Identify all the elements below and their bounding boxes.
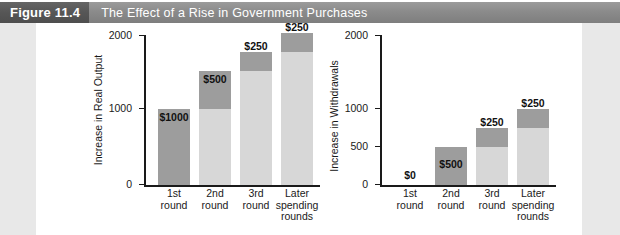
bar-value-label: $250: [517, 97, 549, 109]
bar-value-label: $500: [199, 73, 231, 85]
figure-page: Figure 11.4 The Effect of a Rise in Gove…: [0, 0, 620, 235]
bar-segment-carried: [240, 71, 272, 185]
y-tick-2000: 2000: [375, 35, 381, 36]
page-margin-left: [0, 23, 36, 235]
x-tick-label-later-spending-rounds: Later spending rounds: [272, 188, 322, 223]
bar-segment-carried: [517, 128, 549, 185]
bar-3rd-round: $250 3rd round: [476, 128, 508, 185]
bar-segment-increment: $250: [281, 33, 313, 52]
bar-1st-round: $1000 1st round: [158, 109, 190, 185]
bar-segment-increment: $250: [476, 128, 508, 147]
y-tick-1000: 1000: [139, 108, 145, 109]
bar-segment-carried: [476, 147, 508, 185]
bar-segment-increment: $250: [517, 109, 549, 128]
chart-increase-in-real-output: Increase in Real Output 0 1000 2000 $1: [94, 23, 324, 235]
y-tick-2000: 2000: [139, 35, 145, 36]
y-tick-label-1000: 1000: [345, 102, 368, 114]
y-tick-0: 0: [139, 184, 145, 185]
bar-3rd-round: $250 3rd round: [240, 52, 272, 185]
bar-segment-increment: $500: [199, 71, 231, 109]
chart-increase-in-withdrawals: Increase in Withdrawals 0 500 1000 2000: [330, 23, 570, 235]
y-tick-label-2000: 2000: [109, 29, 132, 41]
bar-segment-increment: $500: [435, 147, 467, 185]
y-axis-line: [380, 35, 382, 187]
bar-later-spending-rounds: $250 Later spending rounds: [281, 33, 313, 185]
bar-segment-carried: [199, 109, 231, 185]
figure-header: Figure 11.4 The Effect of a Rise in Gove…: [0, 2, 620, 23]
x-tick-label-later-spending-rounds: Later spending rounds: [508, 188, 558, 223]
bar-value-label: $500: [435, 158, 467, 170]
charts-container: Increase in Real Output 0 1000 2000 $1: [36, 23, 582, 235]
figure-title: The Effect of a Rise in Government Purch…: [89, 2, 367, 23]
bar-later-spending-rounds: $250 Later spending rounds: [517, 109, 549, 185]
bar-value-label: $0: [394, 169, 426, 181]
bar-segment-carried: [281, 52, 313, 185]
page-margin-right: [582, 23, 620, 235]
bar-value-label: $250: [281, 21, 313, 33]
bar-value-label: $250: [240, 40, 272, 52]
plot-area: 0 500 1000 2000 $0 1st round: [380, 35, 550, 187]
y-axis-line: [144, 35, 146, 187]
bar-value-label: $1000: [158, 111, 190, 123]
y-tick-label-0: 0: [362, 178, 368, 190]
bar-2nd-round: $500 2nd round: [435, 147, 467, 185]
y-axis-label: Increase in Real Output: [92, 35, 106, 185]
y-tick-500: 500: [375, 146, 381, 147]
y-tick-label-0: 0: [126, 178, 132, 190]
bar-segment-increment: $1000: [158, 109, 190, 185]
figure-number: Figure 11.4: [0, 2, 89, 23]
y-tick-label-500: 500: [350, 140, 368, 152]
y-tick-label-2000: 2000: [345, 29, 368, 41]
bar-segment-increment: $250: [240, 52, 272, 71]
bar-value-label: $250: [476, 116, 508, 128]
y-tick-label-1000: 1000: [109, 102, 132, 114]
bar-2nd-round: $500 2nd round: [199, 71, 231, 185]
y-tick-1000: 1000: [375, 108, 381, 109]
plot-area: 0 1000 2000 $1000 1st round: [144, 35, 314, 187]
y-tick-0: 0: [375, 184, 381, 185]
y-axis-label: Increase in Withdrawals: [328, 41, 342, 191]
